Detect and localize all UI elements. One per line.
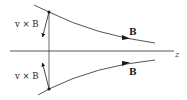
- diagram-canvas: z B B v × B v × B: [0, 0, 187, 100]
- force-arrow-top-icon: [43, 12, 50, 37]
- force-label-top: v × B: [14, 19, 39, 29]
- force-label-bottom: v × B: [14, 71, 39, 81]
- z-axis-label: z: [174, 50, 180, 59]
- field-label-bottom: B: [129, 67, 137, 77]
- force-arrow-bottom-icon: [43, 63, 50, 89]
- field-line-top: [34, 5, 155, 43]
- field-line-bottom: [38, 60, 155, 95]
- field-label-top: B: [129, 27, 137, 37]
